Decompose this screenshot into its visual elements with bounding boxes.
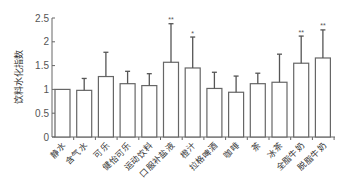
y-axis: 00.511.522.5	[35, 13, 55, 143]
significance-marker: *	[191, 30, 194, 37]
bar	[77, 90, 92, 137]
category-label: 含气水	[63, 140, 89, 166]
bar-chart: 饮料水化指数 00.511.522.5 ******* 静水含气水可乐健怡可乐运…	[0, 0, 349, 191]
bar	[164, 62, 179, 137]
bar	[98, 77, 113, 137]
bar	[120, 84, 135, 137]
category-labels: 静水含气水可乐健怡可乐运动饮料口服补盐液橙汁拉格啤酒咖啡茶冰茶全脂牛奶脱脂牛奶	[48, 140, 328, 179]
bar	[272, 82, 287, 137]
bar	[294, 63, 309, 137]
bar	[185, 68, 200, 137]
category-label: 茶	[250, 140, 263, 153]
bar	[315, 58, 330, 137]
error-bars	[82, 24, 326, 93]
significance-marker: **	[298, 29, 304, 36]
y-tick-label: 0.5	[35, 108, 49, 119]
category-label: 咖啡	[222, 140, 242, 160]
significance-marker: **	[320, 22, 326, 29]
bar	[142, 86, 157, 137]
y-tick-label: 2.5	[35, 13, 49, 24]
y-tick-label: 1.5	[35, 60, 49, 71]
significance-markers: *******	[168, 16, 326, 36]
significance-marker: **	[168, 16, 174, 23]
y-axis-title: 饮料水化指数	[13, 50, 24, 104]
y-tick-label: 0	[43, 132, 49, 143]
bar	[55, 89, 70, 137]
bar	[229, 92, 244, 137]
bars	[55, 58, 330, 137]
bar	[207, 88, 222, 137]
y-tick-label: 1	[43, 84, 49, 95]
y-tick-label: 2	[43, 36, 49, 47]
bar	[250, 84, 265, 137]
